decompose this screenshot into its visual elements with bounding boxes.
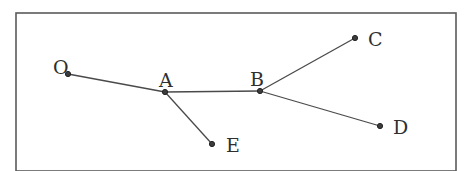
node-e-point-icon (209, 141, 214, 146)
edge-b-d (260, 91, 380, 126)
edges-group (68, 38, 380, 144)
edge-a-e (165, 92, 212, 144)
node-label-b: B (250, 68, 264, 90)
node-c-point-icon (352, 35, 357, 40)
edge-o-a (68, 74, 165, 92)
tree-diagram: OABCDE (0, 0, 470, 171)
node-label-d: D (393, 116, 408, 138)
edge-a-b (165, 91, 260, 92)
node-label-e: E (226, 134, 240, 156)
labels-group: OABCDE (53, 28, 408, 156)
node-label-o: O (53, 56, 69, 78)
edge-b-c (260, 38, 355, 91)
node-label-c: C (368, 28, 383, 50)
node-label-a: A (158, 69, 173, 91)
node-d-point-icon (377, 123, 382, 128)
